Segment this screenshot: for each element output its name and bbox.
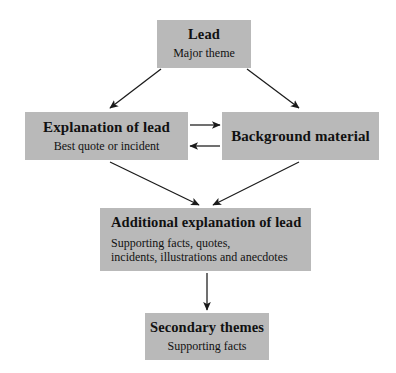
- node-additional-explanation-subtitle-line2: incidents, illustrations and anecdotes: [111, 250, 288, 264]
- connector-background-to-additional: [213, 162, 299, 205]
- node-secondary-themes-subtitle: Supporting facts: [168, 339, 247, 353]
- connector-lead-to-background: [247, 69, 299, 108]
- node-additional-explanation-title: Additional explanation of lead: [111, 215, 301, 231]
- connector-explanation-to-additional: [110, 162, 199, 205]
- node-additional-explanation-subtitle-line1: Supporting facts, quotes,: [111, 236, 230, 250]
- flowchart-diagram: Lead Major theme Explanation of lead Bes…: [0, 0, 396, 373]
- node-lead-title: Lead: [188, 27, 220, 43]
- node-secondary-themes-title: Secondary themes: [150, 320, 264, 336]
- node-background-material-title: Background material: [231, 128, 370, 145]
- node-explanation-of-lead: Explanation of lead Best quote or incide…: [25, 112, 188, 160]
- connector-lead-to-explanation: [110, 69, 161, 108]
- node-additional-explanation-of-lead: Additional explanation of lead Supportin…: [100, 208, 311, 271]
- node-explanation-of-lead-title: Explanation of lead: [43, 119, 170, 136]
- node-lead-subtitle: Major theme: [173, 46, 235, 60]
- node-background-material: Background material: [222, 112, 379, 160]
- node-secondary-themes: Secondary themes Supporting facts: [145, 313, 269, 360]
- node-lead: Lead Major theme: [157, 20, 251, 68]
- node-explanation-of-lead-subtitle: Best quote or incident: [54, 139, 160, 153]
